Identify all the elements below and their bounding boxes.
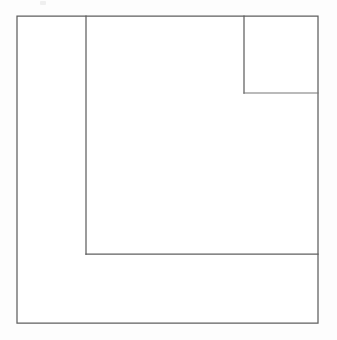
region-central — [86, 16, 318, 254]
line-drawing-svg — [0, 0, 337, 340]
region-bottom-band — [86, 254, 318, 323]
region-left-strip — [17, 16, 86, 323]
scan-speck-artifact — [40, 1, 46, 5]
figure-canvas: Nested rectangles line drawing A scanned… — [0, 0, 337, 340]
